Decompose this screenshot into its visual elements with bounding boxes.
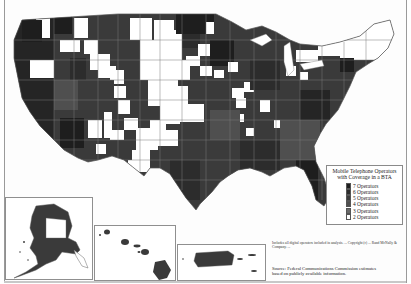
legend-title-line2: with Coverage in a BTA [330, 174, 399, 180]
legend-label: 7 Operators [353, 183, 378, 189]
legend-label: 4 Operators [353, 201, 378, 207]
bottom-rule [4, 281, 406, 283]
legend-item-2: 2 Operators [346, 214, 399, 220]
swatch-3 [346, 208, 351, 214]
source-note: Source: Federal Communications Commissio… [272, 266, 404, 276]
puerto-rico-map [178, 245, 265, 280]
hawaii-map [95, 226, 175, 280]
legend-label: 6 Operators [353, 189, 378, 195]
legend-label: 3 Operators [353, 208, 378, 214]
swatch-5 [346, 195, 351, 201]
puerto-rico-inset [177, 244, 266, 281]
source-line-2: based on publicly available information. [272, 271, 404, 276]
swatch-6 [346, 189, 351, 195]
swatch-4 [346, 201, 351, 207]
map-legend: Mobile Telephone Operators with Coverage… [326, 165, 403, 225]
legend-label: 5 Operators [353, 195, 378, 201]
map-footnote: Includes all digital operators included … [272, 241, 404, 250]
alaska-map [6, 198, 92, 279]
hawaii-inset [94, 225, 176, 281]
legend-label: 2 Operators [353, 214, 378, 220]
swatch-2 [346, 214, 351, 220]
swatch-7 [346, 183, 351, 189]
alaska-inset [5, 197, 93, 280]
